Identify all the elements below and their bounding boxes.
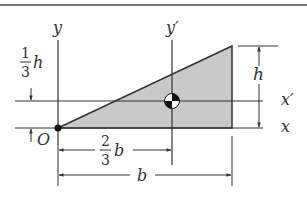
centroid-icon <box>165 94 180 109</box>
svg-text:3: 3 <box>101 152 110 168</box>
origin-label: O <box>37 130 50 149</box>
svg-text:2: 2 <box>101 133 110 149</box>
third-h-label: 1 3 h <box>20 45 43 80</box>
y-prime-label: y′ <box>165 18 179 37</box>
two-thirds-b-label: 2 3 b <box>100 133 124 168</box>
h-label: h <box>253 64 264 84</box>
triangle-centroid-diagram: y y′ x′ x O h 1 3 h 2 3 b b <box>0 0 307 197</box>
triangle-shape <box>58 46 232 128</box>
b-label: b <box>137 166 147 185</box>
origin-point <box>55 125 62 132</box>
svg-text:b: b <box>114 141 124 160</box>
svg-text:1: 1 <box>21 45 30 61</box>
svg-text:3: 3 <box>21 64 30 80</box>
x-prime-label: x′ <box>281 90 294 109</box>
svg-text:h: h <box>33 53 43 72</box>
y-label: y <box>52 18 63 37</box>
x-label: x <box>281 117 290 136</box>
